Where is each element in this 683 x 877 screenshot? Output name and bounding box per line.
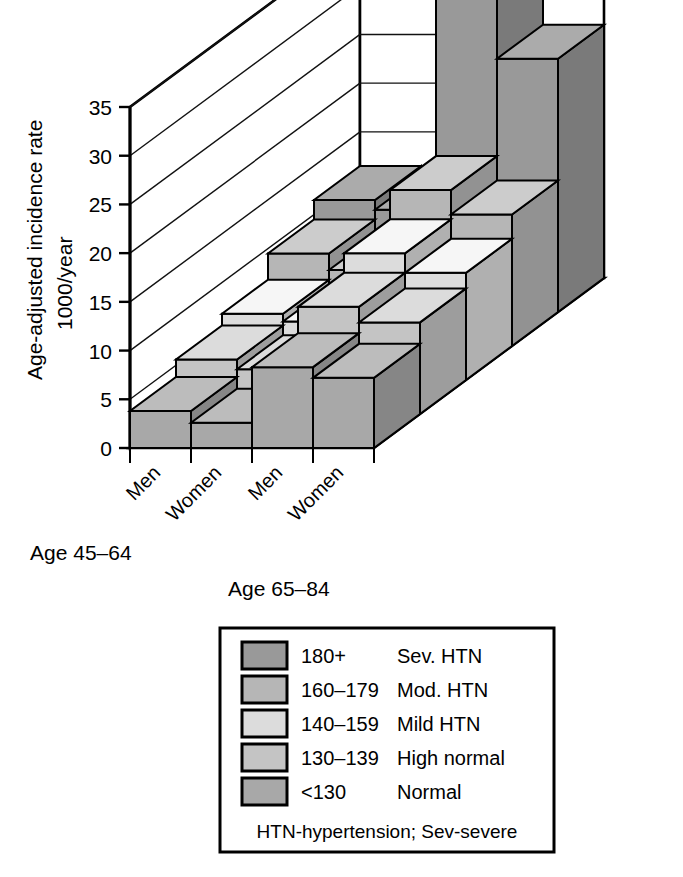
legend: 180+Sev. HTN160–179Mod. HTN140–159Mild H…	[220, 628, 554, 852]
axis-tick-label: 30	[89, 145, 112, 168]
group-label-left: Age 45–64	[30, 541, 132, 564]
category-label-1: Women	[162, 461, 226, 525]
y-axis-title-line1: Age-adjusted incidence rate	[23, 120, 46, 380]
axis-tick-label: 15	[89, 291, 112, 314]
legend-footnote: HTN-hypertension; Sev-severe	[257, 821, 518, 842]
bar-front-face	[130, 411, 191, 448]
category-label-2: Men	[243, 461, 286, 504]
legend-category-label: Sev. HTN	[397, 645, 482, 667]
legend-swatch	[242, 778, 287, 805]
legend-range-label: 140–159	[301, 713, 379, 735]
axis-tick-label: 10	[89, 340, 112, 363]
three-d-bar-chart: 05101520253035Age-adjusted incidence rat…	[0, 0, 683, 877]
axis-tick-label: 35	[89, 96, 112, 119]
group-label-right: Age 65–84	[228, 577, 330, 600]
bar-front-face	[252, 367, 313, 448]
category-axis: MenWomenMenWomen	[121, 448, 374, 525]
legend-category-label: Normal	[397, 781, 461, 803]
legend-category-label: High normal	[397, 747, 505, 769]
y-axis-title-line2: 1000/year	[53, 237, 76, 330]
group-labels: Age 45–64Age 65–84	[30, 541, 330, 600]
bar-front-face	[191, 423, 252, 448]
legend-swatch	[242, 642, 287, 669]
legend-swatch	[242, 676, 287, 703]
legend-item-1[interactable]: 160–179Mod. HTN	[242, 676, 488, 703]
legend-swatch	[242, 744, 287, 771]
bar-front-face	[313, 378, 374, 448]
axis-tick-label: 25	[89, 193, 112, 216]
chart-figure: 05101520253035Age-adjusted incidence rat…	[0, 0, 683, 877]
value-axis: 05101520253035	[89, 96, 130, 460]
category-label-3: Women	[284, 461, 348, 525]
category-label-0: Men	[121, 461, 164, 504]
legend-category-label: Mild HTN	[397, 713, 480, 735]
legend-range-label: 160–179	[301, 679, 379, 701]
legend-item-3[interactable]: 130–139High normal	[242, 744, 505, 771]
axis-tick-label: 0	[100, 437, 112, 460]
legend-range-label: 180+	[301, 645, 346, 667]
value-axis-title: Age-adjusted incidence rate1000/year	[23, 120, 76, 380]
legend-range-label: 130–139	[301, 747, 379, 769]
legend-category-label: Mod. HTN	[397, 679, 488, 701]
axis-tick-label: 20	[89, 242, 112, 265]
legend-swatch	[242, 710, 287, 737]
legend-item-2[interactable]: 140–159Mild HTN	[242, 710, 480, 737]
axis-tick-label: 5	[100, 388, 112, 411]
legend-range-label: <130	[301, 781, 346, 803]
bar-side-face	[558, 25, 604, 312]
